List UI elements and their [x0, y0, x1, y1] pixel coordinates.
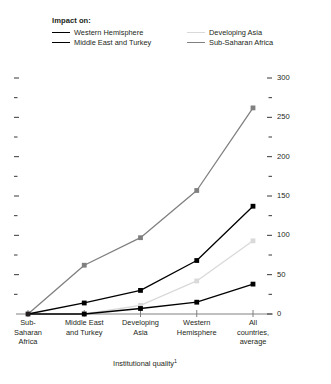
x-axis-title-footnote: 1 — [174, 358, 177, 364]
y-tick-label-250: 250 — [277, 112, 290, 121]
data-point-marker — [82, 312, 87, 317]
chart-figure: Impact on: Western Hemisphere Middle Eas… — [0, 0, 331, 384]
data-point-marker — [138, 288, 143, 293]
series-developing-asia — [28, 238, 255, 316]
y-tick-label-300: 300 — [277, 73, 290, 82]
series-sub-saharan-africa — [28, 105, 255, 314]
series-western-hemisphere — [28, 204, 255, 314]
y-tick-label-50: 50 — [277, 270, 285, 279]
data-point-marker — [251, 105, 256, 110]
series-line — [28, 206, 253, 314]
data-point-marker — [82, 301, 87, 306]
x-axis-title-text: Institutional quality — [113, 359, 174, 368]
y-tick-label-200: 200 — [277, 152, 290, 161]
x-category-label-4: Allcountries,average — [220, 318, 286, 347]
data-point-marker — [194, 188, 199, 193]
data-point-marker — [194, 279, 199, 284]
data-point-marker — [138, 235, 143, 240]
x-category-label-line: average — [220, 337, 286, 347]
y-tick-label-0: 0 — [277, 309, 281, 318]
data-point-marker-origin — [26, 312, 31, 317]
data-point-marker — [251, 238, 256, 243]
x-category-label-line: All — [220, 318, 286, 328]
data-point-marker — [138, 306, 143, 311]
x-category-label-line: Africa — [0, 337, 61, 347]
y-tick-label-100: 100 — [277, 230, 290, 239]
x-axis-title: Institutional quality1 — [0, 358, 290, 368]
series-line — [28, 108, 253, 314]
y-tick-label-150: 150 — [277, 191, 290, 200]
x-category-label-line: countries, — [220, 328, 286, 338]
series-middle-east-and-turkey — [28, 282, 255, 317]
data-point-marker — [194, 300, 199, 305]
data-point-marker — [251, 282, 256, 287]
data-point-marker — [251, 204, 256, 209]
data-point-marker — [82, 263, 87, 268]
data-point-marker — [194, 258, 199, 263]
